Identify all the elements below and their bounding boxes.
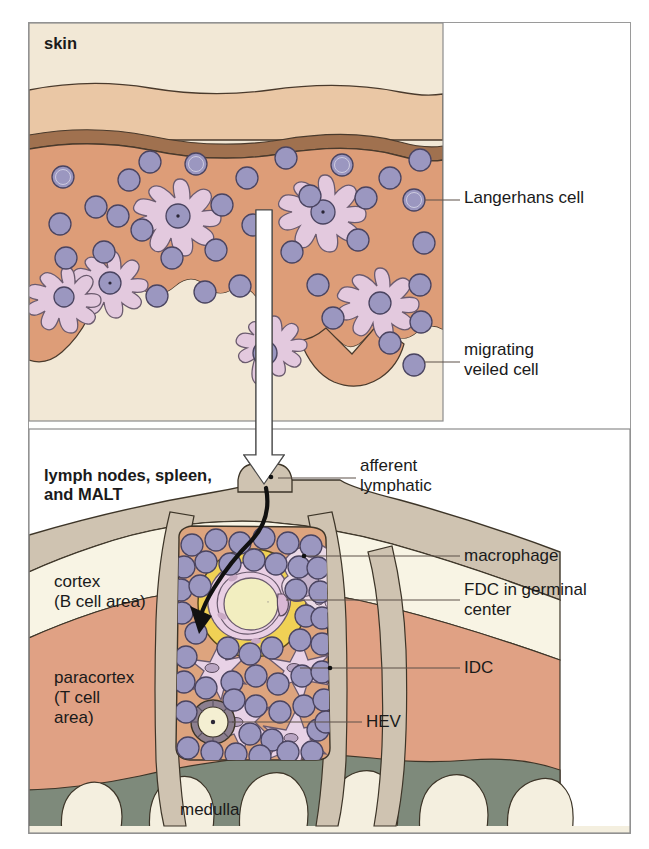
- skin-panel-title: skin: [44, 34, 77, 53]
- label-hev: HEV: [366, 712, 401, 732]
- label-medulla: medulla: [180, 800, 240, 820]
- label-migrating-veiled-cell: migrating veiled cell: [464, 340, 539, 380]
- label-macrophage: macrophage: [464, 546, 559, 566]
- label-afferent-lymphatic: afferent lymphatic: [360, 456, 432, 496]
- label-cortex: cortex (B cell area): [54, 572, 146, 612]
- label-langerhans-cell: Langerhans cell: [464, 188, 584, 208]
- skin-cross-section: [26, 23, 443, 421]
- figure-root: skin lymph nodes, spleen, and MALT Lange…: [0, 0, 649, 849]
- label-paracortex: paracortex (T cell area): [54, 668, 134, 728]
- label-idc: IDC: [464, 658, 493, 678]
- lymphoid-panel-title: lymph nodes, spleen, and MALT: [44, 466, 212, 505]
- label-fdc-germinal-center: FDC in germinal center: [464, 580, 587, 620]
